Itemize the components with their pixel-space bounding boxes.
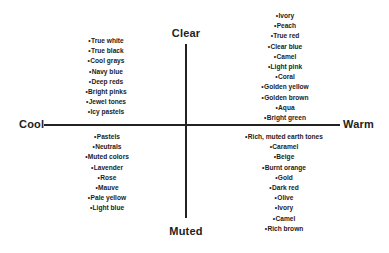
quadrant-term-label: Pale yellow xyxy=(91,194,127,201)
horizontal-axis-line xyxy=(44,124,340,126)
quadrant-term-label: Ivory xyxy=(277,204,293,211)
quadrant-term: •Burnt orange xyxy=(208,163,360,173)
quadrant-term: •Golden brown xyxy=(220,93,350,103)
quadrant-term-label: Peach xyxy=(277,22,296,29)
quadrant-warm-muted: •Rich, muted earth tones•Caramel•Beige•B… xyxy=(208,132,360,234)
quadrant-term: •True white xyxy=(58,36,154,46)
quadrant-term: •Cool grays xyxy=(58,56,154,66)
quadrant-term: •Navy blue xyxy=(58,67,154,77)
axis-label-clear: Clear xyxy=(155,27,217,39)
quadrant-term: •Camel xyxy=(208,214,360,224)
quadrant-term-label: Light blue xyxy=(93,204,125,211)
quadrant-term: •True black xyxy=(58,46,154,56)
quadrant-term-label: True black xyxy=(91,47,124,54)
quadrant-term: •Light blue xyxy=(52,203,162,213)
quadrant-term-label: Golden yellow xyxy=(264,83,309,90)
quadrant-term: •Clear blue xyxy=(220,42,350,52)
quadrant-term-label: True red xyxy=(273,32,299,39)
quadrant-term-label: Light pink xyxy=(271,63,303,70)
quadrant-term: •Gold xyxy=(208,173,360,183)
quadrant-term: •True red xyxy=(220,31,350,41)
quadrant-term-label: Aqua xyxy=(278,104,294,111)
quadrant-term: •Rose xyxy=(52,173,162,183)
quadrant-term: •Bright pinks xyxy=(58,87,154,97)
quadrant-term-label: Icy pastels xyxy=(90,108,124,115)
quadrant-term-label: Rich, muted earth tones xyxy=(248,133,323,140)
quadrant-term-label: Caramel xyxy=(272,143,298,150)
quadrant-term-label: Olive xyxy=(277,194,293,201)
quadrant-term: •Pale yellow xyxy=(52,193,162,203)
quadrant-warm-clear: •Ivory•Peach•True red•Clear blue•Camel•L… xyxy=(220,11,350,123)
quadrant-term: •Jewel tones xyxy=(58,97,154,107)
quadrant-term-label: Golden brown xyxy=(264,94,308,101)
axis-label-cool: Cool xyxy=(19,118,44,130)
quadrant-term: •Golden yellow xyxy=(220,82,350,92)
quadrant-term: •Icy pastels xyxy=(58,107,154,117)
quadrant-term: •Rich, muted earth tones xyxy=(208,132,360,142)
quadrant-term: •Dark red xyxy=(208,183,360,193)
quadrant-term: •Beige xyxy=(208,152,360,162)
quadrant-term: •Peach xyxy=(220,21,350,31)
quadrant-term: •Rich brown xyxy=(208,224,360,234)
quadrant-term: •Muted colors xyxy=(52,152,162,162)
quadrant-term: •Pastels xyxy=(52,132,162,142)
quadrant-term-label: Dark red xyxy=(272,184,299,191)
quadrant-term-label: Mauve xyxy=(98,184,119,191)
quadrant-term: •Light pink xyxy=(220,62,350,72)
quadrant-term-label: Jewel tones xyxy=(89,98,126,105)
quadrant-term: •Olive xyxy=(208,193,360,203)
quadrant-term-label: Clear blue xyxy=(270,43,302,50)
quadrant-term: •Coral xyxy=(220,72,350,82)
quadrant-term-label: Pastels xyxy=(97,133,120,140)
quadrant-term-label: Rich brown xyxy=(267,225,303,232)
quadrant-term-label: Gold xyxy=(278,174,293,181)
quadrant-term-label: Camel xyxy=(276,53,296,60)
quadrant-term-label: Navy blue xyxy=(92,68,123,75)
quadrant-term-label: Deep reds xyxy=(91,78,123,85)
quadrant-term: •Aqua xyxy=(220,103,350,113)
quadrant-term-label: Camel xyxy=(275,215,295,222)
quadrant-term: •Mauve xyxy=(52,183,162,193)
quadrant-term-label: Burnt orange xyxy=(265,164,306,171)
quadrant-term-label: Coral xyxy=(278,73,295,80)
quadrant-term-label: Lavender xyxy=(94,164,123,171)
quadrant-term: •Ivory xyxy=(208,203,360,213)
quadrant-term-label: Ivory xyxy=(278,12,294,19)
quadrant-term-label: Cool grays xyxy=(90,57,124,64)
vertical-axis-line xyxy=(185,44,187,218)
quadrant-term-label: Muted colors xyxy=(88,153,129,160)
quadrant-term-label: Rose xyxy=(100,174,116,181)
quadrant-term-label: True white xyxy=(91,37,124,44)
quadrant-cool-muted: •Pastels•Neutrals•Muted colors•Lavender•… xyxy=(52,132,162,214)
quadrant-term: •Lavender xyxy=(52,163,162,173)
quadrant-term-label: Neutrals xyxy=(95,143,121,150)
quadrant-term: •Caramel xyxy=(208,142,360,152)
quadrant-term-label: Bright pinks xyxy=(88,88,126,95)
quadrant-term: •Deep reds xyxy=(58,77,154,87)
quadrant-term: •Ivory xyxy=(220,11,350,21)
quadrant-term-label: Beige xyxy=(276,153,294,160)
color-quadrant-diagram: Cool Warm Clear Muted •True white•True b… xyxy=(0,0,389,253)
quadrant-term: •Camel xyxy=(220,52,350,62)
quadrant-term: •Neutrals xyxy=(52,142,162,152)
quadrant-cool-clear: •True white•True black•Cool grays•Navy b… xyxy=(58,36,154,118)
quadrant-term: •Bright green xyxy=(220,113,350,123)
quadrant-term-label: Bright green xyxy=(267,114,306,121)
